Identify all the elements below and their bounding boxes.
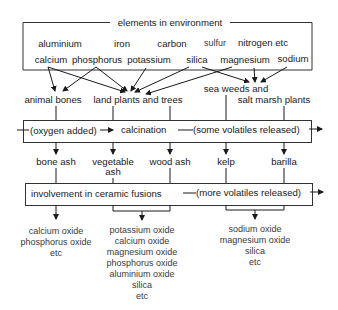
element-silica: silica — [186, 54, 208, 65]
element-calcium: calcium — [35, 54, 68, 65]
oxide-item: phosphorus oxide — [106, 258, 177, 268]
calcination-output-note: (some volatiles released) — [193, 124, 300, 135]
ash-vegetable-line2: ash — [105, 166, 120, 177]
ceramic-ash-flow-diagram: elements in environment aluminium iron c… — [0, 0, 338, 310]
source-land-plants: land plants and trees — [93, 94, 182, 105]
ashes: bone ash vegetable ash wood ash kelp bar… — [36, 156, 297, 178]
calcination-input-note: (oxygen added) — [30, 125, 97, 136]
oxide-item: etc — [136, 291, 149, 301]
element-potassium: potassium — [127, 54, 171, 65]
ash-kelp: kelp — [217, 156, 235, 167]
source-salt-marsh-line2: salt marsh plants — [238, 94, 311, 105]
element-nitrogen-etc: nitrogen etc — [238, 37, 288, 48]
calcination-output-arrows — [56, 142, 284, 154]
element-phosphorus: phosphorus — [72, 54, 122, 65]
element-sodium: sodium — [278, 53, 309, 64]
ash-bone: bone ash — [36, 156, 75, 167]
oxide-item: etc — [50, 248, 63, 258]
source-animal-bones: animal bones — [24, 94, 81, 105]
fusion-box: involvement in ceramic fusions (more vol… — [26, 184, 324, 206]
calcination-box: (oxygen added) calcination (some volatil… — [17, 121, 322, 143]
element-carbon: carbon — [157, 38, 186, 49]
fusion-output-note: (more volatiles released) — [196, 187, 301, 198]
oxide-item: magnesium oxide — [220, 235, 291, 245]
oxide-item: calcium oxide — [115, 236, 170, 246]
oxide-item: silica — [132, 280, 152, 290]
ash-wood: wood ash — [148, 156, 190, 167]
oxide-item: magnesium oxide — [107, 247, 178, 257]
ash-barilla: barilla — [271, 156, 297, 167]
fusion-label: involvement in ceramic fusions — [31, 188, 162, 199]
source-sea-weeds-line1: sea weeds and — [204, 83, 269, 94]
oxide-item: phosphorus oxide — [20, 237, 91, 247]
element-iron: iron — [114, 38, 130, 49]
calcination-label: calcination — [121, 124, 166, 135]
oxide-item: potassium oxide — [109, 225, 174, 235]
sea-oxides: sodium oxide magnesium oxide silica etc — [220, 224, 291, 267]
plant-oxides: potassium oxide calcium oxide magnesium … — [106, 225, 177, 301]
element-sulfur: sulfur — [204, 38, 226, 48]
environment-box-title: elements in environment — [118, 17, 223, 28]
fusion-output-arrows — [56, 205, 284, 220]
element-aluminium: aluminium — [38, 38, 82, 49]
oxide-item: aluminium oxide — [109, 269, 174, 279]
oxide-item: calcium oxide — [29, 226, 84, 236]
oxide-item: etc — [249, 257, 262, 267]
element-magnesium: magnesium — [220, 54, 270, 65]
sources: animal bones land plants and trees sea w… — [24, 83, 310, 105]
bone-oxides: calcium oxide phosphorus oxide etc — [20, 226, 91, 258]
ash-connectors — [56, 168, 284, 183]
oxide-item: sodium oxide — [228, 224, 281, 234]
oxide-item: silica — [245, 246, 265, 256]
environment-box: elements in environment aluminium iron c… — [23, 17, 312, 71]
